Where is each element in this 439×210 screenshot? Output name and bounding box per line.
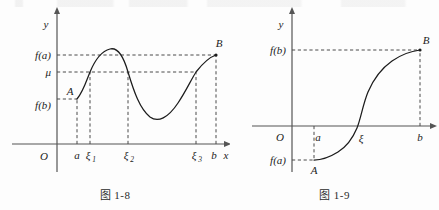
point-label-A-right: A	[310, 164, 318, 176]
y-tick-label-fb-right: f(b)	[270, 44, 286, 57]
figure-page: f(a) μ f(b) y O a ξ 1 ξ 2 ξ 3 b x A B 图 …	[0, 0, 439, 210]
figure-caption-1-9: 图 1-9	[230, 186, 439, 202]
x-tick-label-b-right: b	[417, 131, 423, 143]
figure-caption-1-8: 图 1-8	[0, 186, 230, 202]
plot-1-8: f(a) μ f(b) y O a ξ 1 ξ 2 ξ 3 b x A B	[0, 0, 230, 185]
point-label-A-left: A	[66, 85, 74, 97]
x-tick-label-a-right: a	[315, 131, 321, 143]
plot-1-9: f(b) f(a) y O a ξ b A B	[230, 0, 439, 185]
y-tick-label-fa-right: f(a)	[270, 154, 286, 167]
y-tick-label-mu-left: μ	[44, 66, 51, 78]
x-tick-sub-xi3-left: 3	[197, 155, 202, 164]
figure-1-8: f(a) μ f(b) y O a ξ 1 ξ 2 ξ 3 b x A B 图 …	[0, 0, 230, 210]
x-axis-name-left: x	[223, 149, 229, 161]
figure-1-9: f(b) f(a) y O a ξ b A B 图 1-9	[230, 0, 439, 210]
function-curve-right	[314, 50, 420, 160]
point-B-marker-left	[214, 53, 217, 56]
x-tick-label-xi2-left: ξ	[124, 149, 129, 162]
x-tick-sub-xi1-left: 1	[92, 155, 96, 164]
point-label-B-left: B	[216, 37, 223, 49]
origin-label-left: O	[40, 150, 48, 162]
x-axis-arrow-right	[430, 123, 437, 129]
x-tick-label-a-left: a	[74, 149, 80, 161]
y-axis-arrow-left	[54, 7, 60, 14]
y-tick-label-fa-left: f(a)	[35, 49, 51, 62]
x-tick-label-xi-right: ξ	[359, 132, 364, 145]
point-B-marker-right	[418, 48, 421, 51]
point-label-B-right: B	[423, 34, 430, 46]
y-tick-label-fb-left: f(b)	[35, 99, 51, 112]
function-curve-left	[77, 49, 216, 120]
origin-label-right: O	[276, 131, 284, 143]
x-tick-sub-xi2-left: 2	[130, 155, 134, 164]
y-axis-name-right: y	[278, 18, 284, 30]
x-tick-label-xi3-left: ξ	[192, 149, 197, 162]
y-axis-name-left: y	[43, 18, 49, 30]
x-tick-label-xi1-left: ξ	[86, 149, 91, 162]
y-axis-arrow-right	[289, 7, 295, 14]
x-tick-label-b-left: b	[211, 149, 217, 161]
